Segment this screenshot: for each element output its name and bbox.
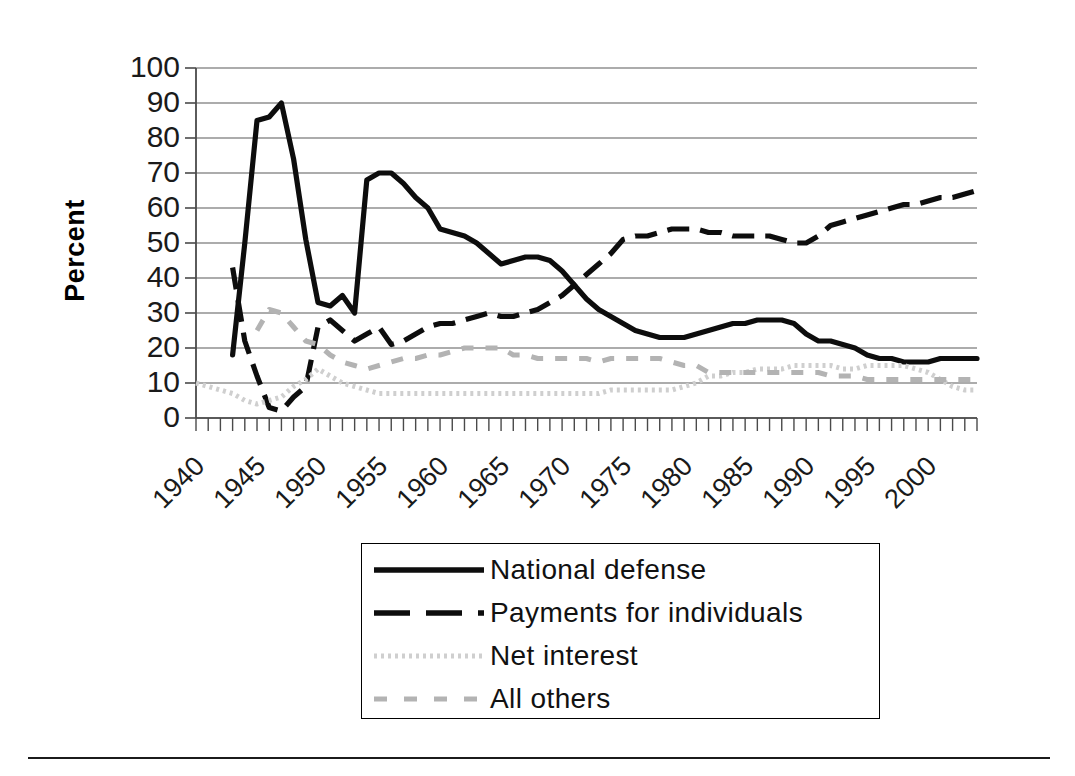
x-axis-tick-label: 1995 — [804, 452, 881, 529]
chart-page: Percent 1009080706050403020100 194019451… — [0, 0, 1075, 776]
footer-divider — [28, 757, 1050, 759]
legend-label: National defense — [490, 556, 707, 584]
x-axis-tick-label: 1940 — [132, 452, 209, 529]
x-axis-tick-label: 1955 — [316, 452, 393, 529]
legend-swatch-dashed-gray-line — [372, 677, 490, 720]
x-axis-tick-label: 1985 — [682, 452, 759, 529]
legend-swatch-dashed-black-line — [372, 591, 490, 634]
x-axis-tick-label: 1965 — [438, 452, 515, 529]
chart-legend: National defensePayments for individuals… — [361, 543, 880, 719]
x-axis-tick-label: 1950 — [255, 452, 332, 529]
legend-label: Payments for individuals — [490, 599, 803, 627]
x-axis-tick-label: 1945 — [193, 452, 270, 529]
x-axis-tick-label: 1990 — [743, 452, 820, 529]
legend-label: All others — [490, 685, 611, 713]
x-axis-tick-label: 1960 — [377, 452, 454, 529]
x-axis-tick-label: 1970 — [499, 452, 576, 529]
legend-item[interactable]: All others — [372, 677, 879, 720]
x-axis-tick-label: 1980 — [621, 452, 698, 529]
legend-item[interactable]: Payments for individuals — [372, 591, 879, 634]
x-axis-tick-label: 1975 — [560, 452, 637, 529]
legend-label: Net interest — [490, 642, 638, 670]
x-axis-tick-label: 2000 — [865, 452, 942, 529]
legend-swatch-solid-black-line — [372, 548, 490, 591]
legend-swatch-dotted-light-gray-line — [372, 634, 490, 677]
legend-item[interactable]: Net interest — [372, 634, 879, 677]
legend-item[interactable]: National defense — [372, 548, 879, 591]
